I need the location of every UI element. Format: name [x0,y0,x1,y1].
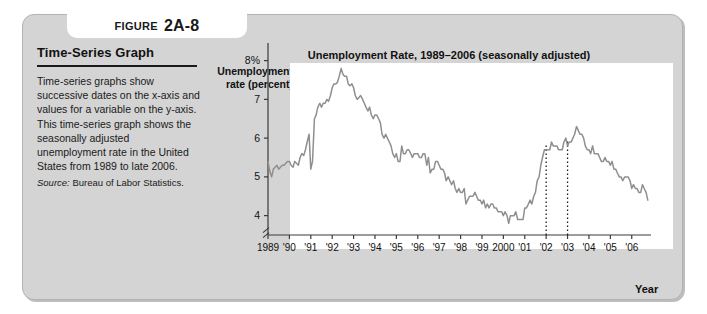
x-tick-label: '97 [433,242,446,253]
x-tick-label: '02 [540,242,553,253]
x-tick-label: '05 [604,242,617,253]
x-tick-label: '94 [368,242,381,253]
figure-root: FIGURE 2A-8 Time-Series Graph Time-serie… [0,0,707,314]
y-tick-label: 7 [254,93,260,105]
x-tick-label: '93 [347,242,360,253]
y-tick-label: 6 [254,132,260,144]
y-tick-label: 8% [245,54,260,66]
x-tick-label: '01 [518,242,531,253]
x-tick-label: '06 [625,242,638,253]
x-tick-label: '91 [304,242,317,253]
series-line [268,68,648,223]
x-tick-label: '98 [454,242,467,253]
x-tick-label: '04 [582,242,595,253]
figure-panel: FIGURE 2A-8 Time-Series Graph Time-serie… [22,14,683,300]
x-tick-label: '03 [561,242,574,253]
y-tick-label: 4 [254,209,260,221]
x-tick-label: '92 [326,242,339,253]
y-tick-label: 5 [254,170,260,182]
x-tick-label: '95 [390,242,403,253]
x-tick-label: '99 [475,242,488,253]
x-tick-label: '96 [411,242,424,253]
chart-svg: 8%76541989'90'91'92'93'94'95'96'97'98'99… [23,15,684,301]
x-tick-label: 1989 [257,242,280,253]
x-axis-label: Year [635,283,658,295]
x-tick-label: '90 [283,242,296,253]
x-tick-label: 2000 [492,242,515,253]
